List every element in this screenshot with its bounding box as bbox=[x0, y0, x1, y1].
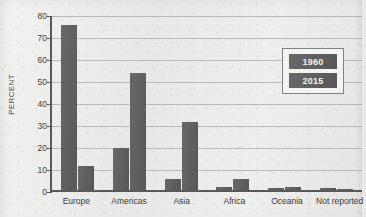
plot-area: 01020304050607080 bbox=[50, 16, 362, 192]
bar-2015 bbox=[285, 187, 301, 190]
y-axis-tick-label: 10 bbox=[7, 165, 47, 175]
y-axis-tick-label: 80 bbox=[7, 11, 47, 21]
bar-group bbox=[310, 16, 362, 190]
legend-label-1960: 1960 bbox=[302, 57, 323, 67]
bar-1960 bbox=[216, 187, 232, 190]
legend-item-2015: 2015 bbox=[289, 73, 337, 88]
bar-group bbox=[207, 16, 259, 190]
bar-2015 bbox=[130, 73, 146, 190]
y-axis-tick-label: 60 bbox=[7, 55, 47, 65]
bar-1960 bbox=[268, 188, 284, 190]
category-label: Not reported bbox=[313, 196, 366, 206]
category-label: Africa bbox=[208, 196, 261, 206]
bar-group bbox=[104, 16, 156, 190]
category-axis: EuropeAmericasAsiaAfricaOceaniaNot repor… bbox=[50, 196, 366, 206]
bar-1960 bbox=[61, 25, 77, 190]
category-label: Americas bbox=[103, 196, 156, 206]
bar-1960 bbox=[165, 179, 181, 190]
y-axis-title: PERCENT bbox=[7, 65, 16, 125]
bars-layer bbox=[52, 16, 362, 190]
y-axis-tick-label: 0 bbox=[7, 187, 47, 197]
chart-legend: 1960 2015 bbox=[282, 48, 344, 94]
legend-swatch-1960: 1960 bbox=[289, 54, 337, 69]
bar-group bbox=[155, 16, 207, 190]
y-axis-tick-label: 30 bbox=[7, 121, 47, 131]
bar-group bbox=[52, 16, 104, 190]
bar-1960 bbox=[320, 188, 336, 190]
bar-2015 bbox=[337, 189, 353, 191]
y-axis-tick-label: 70 bbox=[7, 33, 47, 43]
category-label: Oceania bbox=[261, 196, 314, 206]
bar-2015 bbox=[233, 179, 249, 190]
y-axis-tick-label: 40 bbox=[7, 99, 47, 109]
legend-item-1960: 1960 bbox=[289, 54, 337, 69]
category-label: Asia bbox=[155, 196, 208, 206]
y-axis-tick bbox=[47, 192, 52, 193]
bar-2015 bbox=[78, 166, 94, 190]
y-axis-tick-label: 20 bbox=[7, 143, 47, 153]
bar-1960 bbox=[113, 148, 129, 190]
legend-swatch-2015: 2015 bbox=[289, 73, 337, 88]
bar-group bbox=[259, 16, 311, 190]
y-axis-tick-label: 50 bbox=[7, 77, 47, 87]
category-label: Europe bbox=[50, 196, 103, 206]
legend-label-2015: 2015 bbox=[302, 76, 323, 86]
bar-2015 bbox=[182, 122, 198, 190]
